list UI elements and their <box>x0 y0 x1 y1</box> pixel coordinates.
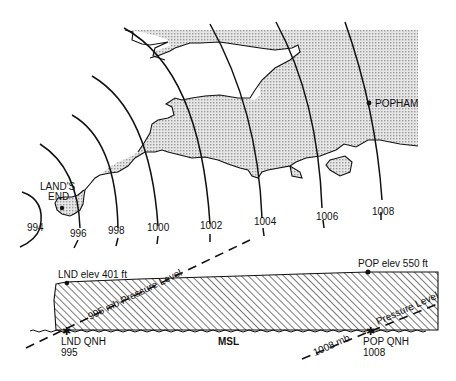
isobar-label-1004: 1004 <box>254 216 277 227</box>
lnd-qnh-value: 995 <box>61 347 78 358</box>
isobar-label-1000: 1000 <box>147 222 170 233</box>
cross-section: ✱ ✱ LND elev 401 ft POP elev 550 ft MSL … <box>26 240 440 359</box>
lands-end-label-2: END <box>48 191 69 202</box>
isobar-label-996: 996 <box>70 228 87 239</box>
lnd-elev-marker <box>65 281 70 286</box>
popham-marker <box>367 101 372 106</box>
isobar-label-1008: 1008 <box>372 206 395 217</box>
msl-label: MSL <box>218 336 239 347</box>
lnd-qnh-label: LND QNH <box>61 336 106 347</box>
isobar-label-994: 994 <box>27 222 44 233</box>
isobar-label-998: 998 <box>108 225 125 236</box>
isobar-994 <box>20 192 41 247</box>
popham-label: POPHAM <box>375 98 418 109</box>
land-mass <box>55 30 418 216</box>
qnh-diagram: 994 996 998 1000 1002 1004 1006 1008 LAN… <box>0 0 456 381</box>
pressure-level-1008-label-a: 1008 mb <box>311 332 351 358</box>
pop-elev-label: POP elev 550 ft <box>358 258 428 269</box>
isobar-labels: 994 996 998 1000 1002 1004 1006 1008 <box>27 206 395 239</box>
pop-elev-marker <box>366 270 371 275</box>
isobar-label-1002: 1002 <box>200 220 223 231</box>
pop-qnh-label: POP QNH <box>363 336 409 347</box>
pop-qnh-value: 1008 <box>363 347 386 358</box>
isobar-label-1006: 1006 <box>316 211 339 222</box>
lnd-elev-label: LND elev 401 ft <box>58 269 127 280</box>
lands-end-marker <box>60 206 64 210</box>
